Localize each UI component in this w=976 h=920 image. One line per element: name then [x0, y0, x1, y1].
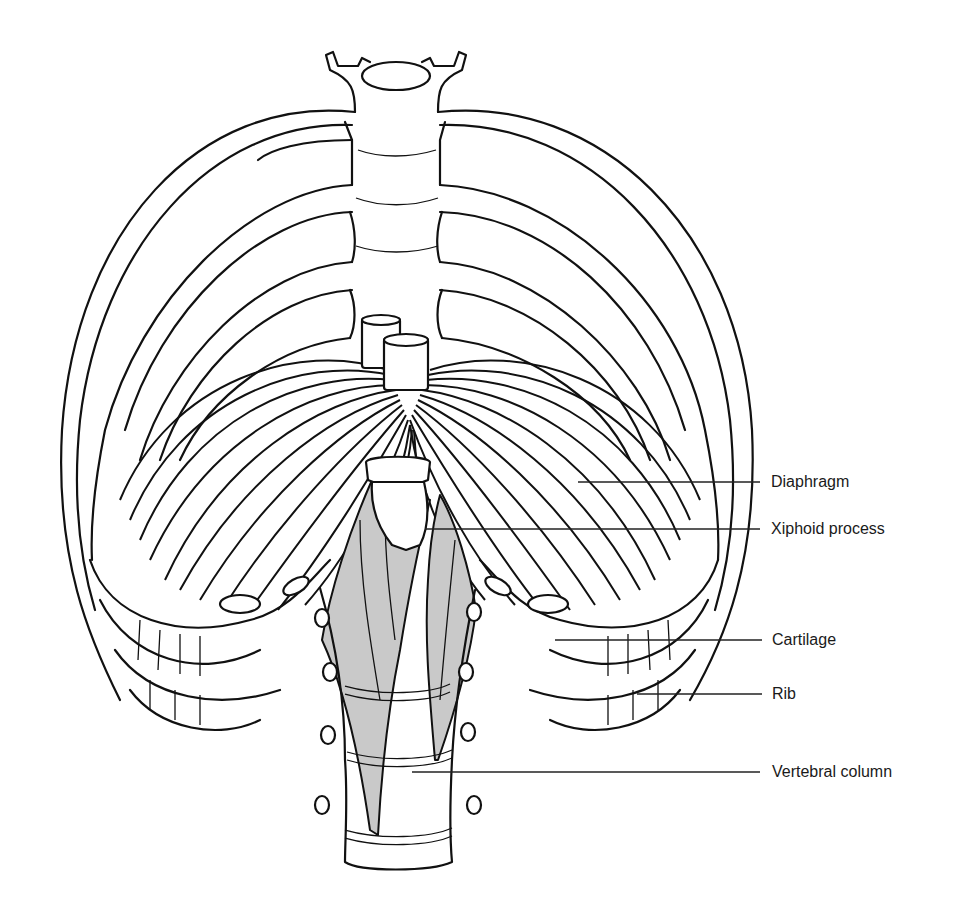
label-xiphoid-process: Xiphoid process: [771, 519, 885, 539]
label-cartilage: Cartilage: [772, 630, 836, 650]
label-rib: Rib: [772, 684, 796, 704]
label-vertebral-column: Vertebral column: [772, 762, 892, 782]
anatomy-diagram: Diaphragm Xiphoid process Cartilage Rib …: [0, 0, 976, 920]
ribcage-left: [61, 111, 355, 700]
label-diaphragm: Diaphragm: [771, 472, 849, 492]
upper-vertebra: [326, 52, 466, 252]
diaphragm-illustration: [0, 0, 976, 920]
costal-cartilage-right: [480, 560, 718, 730]
